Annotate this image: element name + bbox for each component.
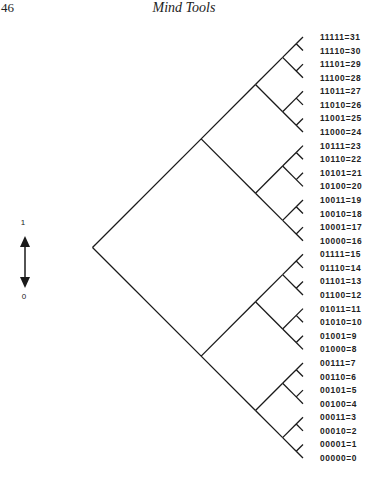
leaf-label: 01000=8 [320,344,357,354]
leaf-label: 00011=3 [320,412,357,422]
leaf-label: 10110=22 [320,154,362,164]
tree-branch [283,370,297,384]
leaf-label: 01100=12 [320,290,362,300]
tree-branch [296,234,303,241]
leaf-label: 00001=1 [320,439,357,449]
tree-branch [296,227,303,234]
tree-branch [296,363,303,370]
leaf-label: 00110=6 [320,372,357,382]
leaf-labels: 00000=000001=100010=200011=300100=400101… [320,32,362,463]
tree-branch [283,261,297,275]
tree-branch [283,44,297,58]
tree-branch [93,139,202,248]
leaf-label: 01110=14 [320,263,361,273]
tree-branch [255,85,282,112]
leaf-label: 01101=13 [320,276,362,286]
tree-branch [201,85,255,139]
tree-branch [296,125,303,132]
tree-branch [296,451,303,458]
leaf-label: 00101=5 [320,385,357,395]
tree-branch [283,315,297,329]
tree-branch [296,118,303,125]
leaf-label: 11110=30 [320,46,361,56]
leaf-label: 10100=20 [320,181,362,191]
tree-branch [296,200,303,207]
tree-branch [296,424,303,431]
double-arrow-icon [20,236,30,288]
tree-branch [296,315,303,322]
tree-branch [296,343,303,350]
tree-branch [255,275,282,302]
leaf-label: 00000=0 [320,453,357,463]
tree-branch [283,207,297,221]
tree-branch [296,180,303,187]
leaf-label: 10001=17 [320,222,362,232]
leaf-label: 10000=16 [320,236,362,246]
tree-branch [283,424,297,438]
tree-branch [296,370,303,377]
leaf-label: 11010=26 [320,100,362,110]
leaf-label: 11111=31 [320,32,360,42]
leaf-label: 11101=29 [320,59,361,69]
tree-branch [296,173,303,180]
tree-branch [296,281,303,288]
leaf-label: 11001=25 [320,113,362,123]
leaf-label: 11011=27 [320,86,361,96]
tree-branch [283,220,297,234]
tree-branch [255,166,282,193]
leaf-label: 10011=19 [320,195,362,205]
leaf-label: 00111=7 [320,358,356,368]
tree-branch [283,57,297,71]
tree-branch [296,309,303,316]
tree-branch [296,397,303,404]
tree-branch [283,275,297,289]
leaf-label: 01111=15 [320,249,361,259]
tree-branches [93,37,304,458]
tree-branch [283,112,297,126]
leaf-label: 10111=23 [320,141,361,151]
tree-branch [296,207,303,214]
tree-branch [93,248,202,357]
leaf-label: 11000=24 [320,127,362,137]
leaf-label: 00010=2 [320,426,357,436]
tree-branch [296,44,303,51]
tree-branch [296,444,303,451]
tree-branch [283,383,297,397]
tree-branch [296,37,303,44]
tree-branch [283,166,297,180]
tree-branch [283,438,297,452]
binary-legend: 1 0 [20,218,30,301]
tree-branch [296,254,303,261]
tree-branch [296,336,303,343]
tree-branch [201,302,255,356]
leaf-label: 11100=28 [320,73,361,83]
tree-branch [296,64,303,71]
tree-branch [296,71,303,78]
tree-branch [283,98,297,112]
tree-branch [296,288,303,295]
tree-branch [296,152,303,159]
tree-branch [296,146,303,153]
tree-branch [296,390,303,397]
tree-branch [255,193,282,220]
leaf-label: 01010=10 [320,317,362,327]
tree-branch [255,57,282,84]
tree-branch [255,410,282,437]
leaf-label: 10101=21 [320,168,362,178]
tree-branch [255,383,282,410]
binary-tree-diagram: 00000=000001=100010=200011=300100=400101… [0,0,368,490]
tree-branch [296,98,303,105]
tree-branch [201,356,255,410]
tree-branch [201,139,255,193]
tree-branch [296,91,303,98]
leaf-label: 01011=11 [320,304,361,314]
leaf-label: 10010=18 [320,209,362,219]
tree-branch [255,302,282,329]
leaf-label: 01001=9 [320,331,357,341]
legend-bottom-label: 0 [22,292,27,301]
legend-top-label: 1 [21,218,26,227]
leaf-label: 00100=4 [320,399,357,409]
tree-branch [296,261,303,268]
tree-branch [283,152,297,166]
tree-branch [296,417,303,424]
